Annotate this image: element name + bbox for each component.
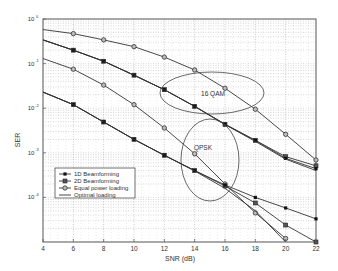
y-tick-label: 10	[28, 16, 35, 22]
x-tick-label: 16	[221, 245, 229, 252]
x-tick-label: 8	[102, 245, 106, 252]
legend-entry: Equal power loading	[74, 185, 128, 191]
x-tick-label: 6	[72, 245, 76, 252]
svg-text:-1: -1	[35, 58, 39, 63]
y-tick-label: 10	[28, 61, 35, 67]
ser-vs-snr-chart: 16 QAMQPSK 46810121416182022 10010-110-2…	[0, 0, 338, 271]
legend-entry: Optimal loading	[74, 192, 116, 198]
legend: 1D Beamforming2D BeamformingEqual power …	[55, 168, 135, 198]
x-tick-label: 18	[252, 245, 260, 252]
x-tick-label: 20	[282, 245, 290, 252]
y-tick-label: 10	[28, 150, 35, 156]
y-tick-label: 10	[28, 105, 35, 111]
series-4	[43, 59, 288, 241]
data-series	[43, 30, 318, 244]
series-1	[43, 40, 318, 168]
x-axis-ticks: 46810121416182022	[41, 239, 320, 252]
legend-entry: 2D Beamforming	[74, 178, 119, 184]
x-tick-label: 4	[41, 245, 45, 252]
grid-lines	[43, 19, 316, 242]
svg-text:0: 0	[36, 14, 39, 19]
svg-text:-2: -2	[35, 103, 39, 108]
x-tick-label: 14	[191, 245, 199, 252]
legend-entry: 1D Beamforming	[74, 171, 119, 177]
y-axis-label: SER	[14, 133, 21, 147]
x-tick-label: 10	[130, 245, 138, 252]
x-tick-label: 12	[161, 245, 169, 252]
x-tick-label: 22	[312, 245, 320, 252]
series-2	[43, 40, 318, 170]
svg-text:-3: -3	[35, 147, 39, 152]
annotation-label: QPSK	[194, 144, 213, 152]
annotation-label: 16 QAM	[201, 90, 225, 98]
svg-text:-4: -4	[35, 192, 39, 197]
y-tick-label: 10	[28, 194, 35, 200]
x-axis-label: SNR (dB)	[165, 255, 195, 263]
